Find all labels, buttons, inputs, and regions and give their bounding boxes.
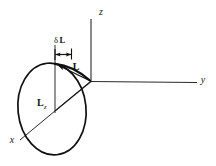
x-axis-label: x — [9, 134, 15, 145]
figure-root: z y x L L z δ L — [0, 0, 216, 166]
precession-diagram-svg: z y x L L z δ L — [0, 0, 216, 166]
deltaL-label-text: L — [60, 35, 66, 45]
deltaL-label: δ L — [54, 35, 66, 45]
L-vector-label: L — [73, 61, 80, 72]
Lz-label-main: L — [37, 97, 44, 108]
y-axis-label: y — [200, 74, 206, 85]
deltaL-label-symbol: δ — [54, 35, 58, 45]
figure-background — [0, 0, 216, 166]
Lz-label-subscript: z — [43, 103, 47, 110]
z-axis-label: z — [98, 6, 103, 17]
